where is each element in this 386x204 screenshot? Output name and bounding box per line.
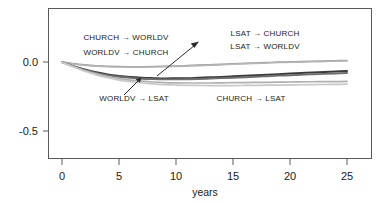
annotation-church-to-lsat: CHURCH → LSAT [216, 94, 285, 103]
annotation-lsat-to-church: LSAT → CHURCH [231, 29, 300, 38]
annotation-worldv-to-church: WORLDV → CHURCH [83, 48, 168, 57]
x-tick-label-3: 15 [227, 170, 239, 182]
x-tick-label-4: 20 [284, 170, 296, 182]
annotation-worldv-to-lsat: WORLDV → LSAT [99, 94, 169, 103]
curve-group [62, 60, 347, 85]
curve-lsat-worldv [62, 61, 347, 67]
annotation-church-to-worldv: CHURCH → WORLDV [83, 33, 169, 42]
annotation-lsat-to-worldv: LSAT → WORLDV [230, 42, 300, 51]
x-axis-title: years [192, 186, 218, 198]
x-tick-label-1: 5 [116, 170, 122, 182]
x-tick-label-2: 10 [170, 170, 182, 182]
x-tick-label-0: 0 [59, 170, 65, 182]
x-tick-label-5: 25 [341, 170, 353, 182]
y-tick-label-1: -0.5 [19, 125, 38, 137]
y-tick-label-0: 0.0 [23, 56, 38, 68]
chart-figure: 0.0 -0.5 0 5 10 15 20 25 years CHURCH → … [0, 0, 386, 204]
plot-canvas: 0.0 -0.5 0 5 10 15 20 25 years CHURCH → … [0, 0, 386, 204]
